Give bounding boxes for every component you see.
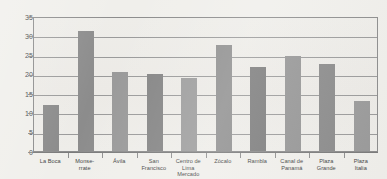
bar [43, 105, 59, 151]
x-axis-category-label-line: Ávila [102, 158, 137, 165]
x-axis-category-label-line: Plaza [309, 158, 344, 165]
x-axis-category-label: Rambla [240, 158, 275, 165]
x-axis-category-label-line: Italia [344, 165, 379, 172]
bar [78, 31, 94, 151]
x-axis-category-label-line: rrate [68, 165, 103, 172]
x-axis-category-label: Centro deLimaMercado [171, 158, 206, 178]
bar [354, 101, 370, 151]
bar [181, 78, 197, 151]
x-axis-category-label: Ávila [102, 158, 137, 165]
bar [250, 67, 266, 151]
x-axis-category-label: La Boca [33, 158, 68, 165]
x-axis-category-label-line: Rambla [240, 158, 275, 165]
x-axis-category-label: Canal dePanamá [275, 158, 310, 171]
plot-area [33, 17, 378, 152]
bar [147, 74, 163, 151]
x-axis-category-label-line: Lima [171, 165, 206, 172]
bar [112, 72, 128, 151]
x-axis-category-label-line: Panamá [275, 165, 310, 172]
x-axis-category-label-line: La Boca [33, 158, 68, 165]
chart-screenshot: 05101520253035 La BocaMonse-rrateÁvilaSa… [0, 0, 387, 179]
bar [216, 45, 232, 151]
y-axis: 05101520253035 [0, 0, 33, 179]
x-axis-category-label: PlazaGrande [309, 158, 344, 171]
x-axis-category-label: Monse-rrate [68, 158, 103, 171]
x-axis-category-label-line: Francisco [137, 165, 172, 172]
x-axis-category-label-line: Grande [309, 165, 344, 172]
x-axis-category-label: Zócalo [206, 158, 241, 165]
bar [319, 64, 335, 151]
x-axis-category-label-line: Centro de [171, 158, 206, 165]
x-axis-category-label-line: Zócalo [206, 158, 241, 165]
x-axis-category-label-line: Monse- [68, 158, 103, 165]
x-axis-labels: La BocaMonse-rrateÁvilaSanFranciscoCentr… [33, 153, 378, 179]
x-axis-category-label-line: Plaza [344, 158, 379, 165]
bar-series [34, 18, 377, 151]
x-axis-category-label-line: San [137, 158, 172, 165]
bar [285, 56, 301, 151]
x-axis-category-label-line: Canal de [275, 158, 310, 165]
x-axis-category-label: SanFrancisco [137, 158, 172, 171]
x-axis-category-label-line: Mercado [171, 171, 206, 178]
x-axis-category-label: PlazaItalia [344, 158, 379, 171]
